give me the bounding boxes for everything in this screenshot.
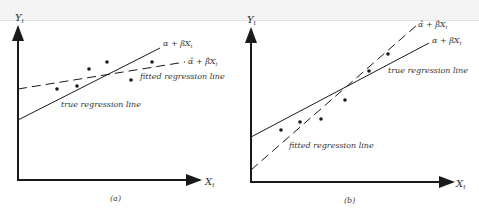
true-line-formula-b: α + βXt [432, 36, 463, 46]
true-regression-line-a [18, 48, 160, 120]
caption-b: (b) [344, 196, 355, 205]
caption-a: (a) [110, 194, 121, 203]
data-points-b [279, 52, 390, 132]
panel-b: Yt Xt α̂ + β̂Xt α + βXt true regression … [247, 14, 468, 205]
true-line-label-a: true regression line [61, 100, 141, 109]
true-regression-line-b [251, 43, 429, 137]
panel-a: Yt Xt α + βXt α̂ + β̂Xt fitted regressio… [15, 12, 225, 203]
true-line-formula-a: α + βXt [163, 39, 194, 49]
fitted-line-label-a: fitted regression line [139, 72, 225, 81]
fitted-line-label-b: fitted regression line [288, 141, 374, 150]
regression-diagram: Yt Xt α + βXt α̂ + β̂Xt fitted regressio… [0, 0, 479, 213]
y-axis-label-a: Yt [15, 12, 25, 24]
fitted-line-formula-b: α̂ + β̂Xt [418, 20, 449, 30]
true-line-label-b: true regression line [388, 66, 468, 75]
y-axis-label-b: Yt [247, 14, 257, 26]
x-axis-label-a: Xt [204, 176, 215, 188]
fitted-line-formula-a: α̂ + β̂Xt [188, 57, 219, 67]
x-axis-label-b: Xt [455, 178, 466, 190]
